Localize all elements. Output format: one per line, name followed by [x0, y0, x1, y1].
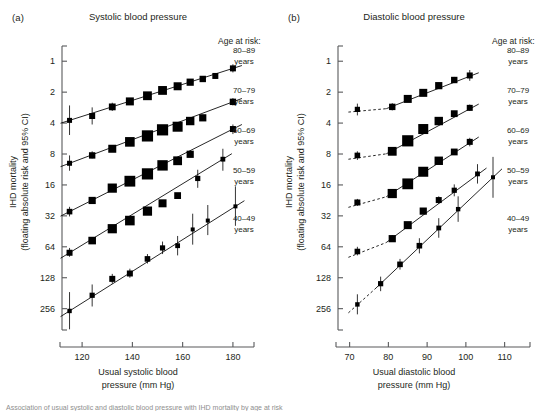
y-tick-label: 1 — [50, 56, 55, 66]
data-point — [420, 208, 427, 215]
data-point — [418, 167, 428, 177]
data-point — [142, 168, 153, 179]
x-tick-label: 110 — [497, 352, 511, 362]
regression-line — [386, 73, 479, 109]
x-tick-label: 160 — [175, 352, 190, 362]
data-point — [435, 157, 443, 165]
legend-age-unit: years — [490, 57, 546, 68]
x-axis — [336, 342, 530, 347]
data-point — [89, 197, 96, 204]
y-tick-label: 8 — [50, 149, 55, 159]
data-point — [157, 124, 168, 135]
data-point — [127, 270, 133, 276]
x-tick-label: 80 — [383, 352, 393, 362]
data-point — [159, 199, 167, 207]
panel-a-legend-title: Age at risk: — [218, 36, 261, 46]
data-point — [220, 157, 225, 162]
data-point — [355, 153, 361, 159]
legend-age-range: 50–59 — [216, 166, 272, 177]
series-1 — [61, 64, 242, 135]
data-point — [402, 178, 413, 189]
data-point — [418, 124, 428, 134]
data-point — [451, 110, 458, 117]
data-point — [355, 249, 361, 255]
data-point — [175, 243, 180, 248]
data-point — [67, 118, 72, 123]
data-point — [378, 281, 383, 286]
data-point — [187, 151, 194, 158]
legend-entry-60-69: 60–69years — [216, 126, 272, 147]
data-point — [467, 72, 473, 78]
data-point — [404, 221, 412, 229]
legend-age-range: 40–49 — [216, 214, 272, 225]
data-point — [417, 243, 423, 249]
data-point — [233, 204, 237, 208]
data-point — [388, 147, 397, 156]
data-point — [125, 137, 135, 147]
data-point — [475, 171, 480, 176]
data-point — [89, 113, 95, 119]
data-point — [191, 227, 195, 231]
legend-entry-70-79: 70–79years — [216, 86, 272, 107]
data-point — [404, 95, 412, 103]
legend-age-range: 40–49 — [490, 214, 546, 225]
data-point — [397, 262, 403, 268]
legend-entry-70-79: 70–79years — [490, 86, 546, 107]
y-tick-label: 256 — [40, 304, 55, 314]
legend-age-unit: years — [216, 97, 272, 108]
data-point — [124, 176, 135, 187]
data-point — [451, 149, 458, 156]
y-axis — [338, 46, 343, 330]
x-tick-group: 708090100110 — [345, 342, 512, 362]
data-point — [402, 135, 413, 146]
legend-age-range: 70–79 — [216, 86, 272, 97]
y-tick-label: 1 — [326, 56, 331, 66]
data-point — [435, 117, 443, 125]
y-tick-label: 64 — [45, 242, 55, 252]
y-tick-label: 128 — [40, 273, 55, 283]
data-point — [452, 188, 457, 193]
data-point — [389, 104, 395, 110]
legend-age-range: 50–59 — [490, 166, 546, 177]
y-tick-label: 128 — [316, 273, 331, 283]
data-point — [174, 192, 181, 199]
data-point — [67, 161, 72, 166]
data-point — [126, 97, 134, 105]
data-point — [125, 216, 135, 226]
legend-age-range: 60–69 — [216, 126, 272, 137]
x-tick-label: 100 — [458, 352, 473, 362]
data-point — [200, 76, 206, 82]
series-2 — [348, 104, 478, 160]
data-point — [109, 276, 115, 282]
legend-age-unit: years — [490, 225, 546, 236]
legend-age-range: 80–89 — [490, 46, 546, 57]
regression-line-dashed — [348, 197, 386, 208]
data-point — [67, 309, 71, 313]
y-tick-label: 4 — [326, 118, 331, 128]
data-point — [143, 91, 152, 100]
y-tick-label: 8 — [326, 149, 331, 159]
legend-age-unit: years — [490, 137, 546, 148]
regression-line-dashed — [348, 109, 386, 112]
regression-line-dashed — [348, 154, 386, 159]
regression-line-dashed — [348, 289, 374, 313]
x-tick-label: 140 — [125, 352, 140, 362]
data-point — [109, 103, 116, 110]
data-point — [173, 156, 182, 165]
data-point — [451, 77, 457, 83]
data-point — [206, 219, 210, 223]
y-tick-label: 4 — [50, 118, 55, 128]
data-point — [388, 189, 397, 198]
data-point — [158, 86, 167, 95]
data-point — [467, 105, 473, 111]
x-tick-group: 120140160180 — [75, 342, 241, 362]
y-tick-group: 2561286432168421 — [316, 56, 343, 313]
y-axis — [62, 46, 67, 330]
data-point — [174, 82, 182, 90]
series-5 — [61, 186, 245, 329]
data-point — [199, 114, 206, 121]
data-point — [435, 82, 442, 89]
y-tick-label: 32 — [45, 211, 55, 221]
legend-age-unit: years — [490, 97, 546, 108]
data-point — [456, 207, 460, 211]
